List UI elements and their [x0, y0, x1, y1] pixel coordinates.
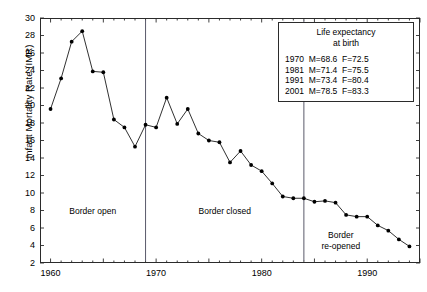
legend-row-2: 1991 M=73.4 F=80.4 [285, 75, 407, 86]
annotation-line: Border [281, 230, 401, 241]
annotation-line: Border open [33, 206, 153, 217]
legend-row-0: 1970 M=68.6 F=72.5 [285, 54, 407, 65]
legend-title-line1: Life expectancy [285, 27, 407, 38]
legend-row-3: 2001 M=78.5 F=83.3 [285, 86, 407, 97]
annotation-0: Border open [33, 206, 153, 217]
legend-row-1: 1981 M=71.4 F=75.5 [285, 65, 407, 76]
annotation-1: Border closed [165, 206, 285, 217]
legend-box: Life expectancy at birth 1970 M=68.6 F=7… [278, 22, 414, 102]
annotation-line: re-opened [281, 241, 401, 252]
legend-title-line2: at birth [285, 38, 407, 49]
annotation-line: Border closed [165, 206, 285, 217]
annotation-2: Borderre-opened [281, 230, 401, 252]
chart-figure: Infant Mortality Rate (IMR) 246810121416… [0, 0, 427, 292]
legend-rows: 1970 M=68.6 F=72.51981 M=71.4 F=75.51991… [285, 54, 407, 96]
